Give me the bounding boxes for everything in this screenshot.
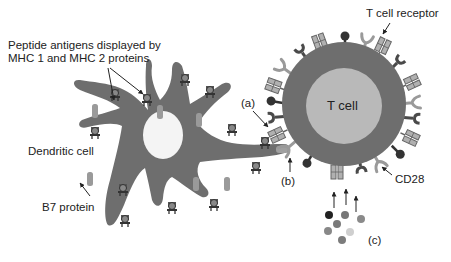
arrow-cd28 [382,167,392,175]
cd28-label: CD28 [395,173,424,186]
mhc-peptide-complex [251,162,261,174]
signal-molecules [324,211,365,244]
mhc-peptide-complex [209,199,219,211]
b7-protein [196,113,202,127]
b7-protein [92,104,98,118]
dendritic-cell [74,59,290,227]
signal-molecule [338,236,346,244]
label-a: (a) [241,97,255,110]
signal-molecule [357,215,365,223]
dark-receptor [389,143,407,161]
signal-molecule [341,211,349,219]
mhc-peptide-complex [167,202,177,214]
signal-molecule [324,227,332,235]
arrow-a [253,111,268,127]
peptide-antigens-label-line1: Peptide antigens displayed by [8,39,161,52]
peptide-antigens-label-line2: MHC 1 and MHC 2 proteins [8,52,149,65]
b7-protein-label: B7 protein [42,201,94,214]
signal-molecule [333,220,341,228]
dark-receptor [403,111,420,124]
b7-protein [87,172,93,186]
signal-molecule [346,228,354,236]
mhc-peptide-complex [120,215,130,227]
dark-receptor [268,110,285,123]
dendritic-cell-label: Dendritic cell [28,145,94,158]
arrow-t-cell-receptor [383,23,390,34]
signal-molecule [325,211,333,219]
b7-protein [224,177,230,191]
b7-protein [157,105,163,119]
t-cell-receptor-label: T cell receptor [366,7,439,20]
dark-receptor [266,96,284,108]
diagram-canvas: Peptide antigens displayed by MHC 1 and … [0,0,451,262]
t-cell-receptor [398,127,420,146]
t-cell-label: T cell [327,99,358,112]
label-c: (c) [368,234,381,247]
b7-protein [193,177,199,191]
dendritic-nucleus [143,111,183,159]
mhc-peptide-complex [227,124,237,136]
label-b: (b) [281,175,295,188]
cd28-receptor [403,96,420,109]
mhc-peptide-complex [90,127,100,139]
